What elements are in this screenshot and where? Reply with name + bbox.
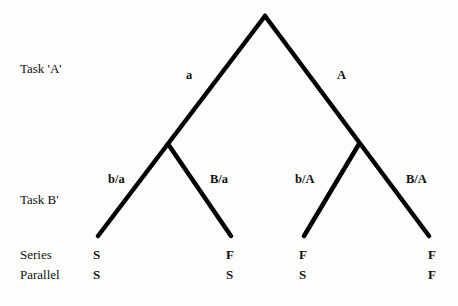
branch-B-given-a-line bbox=[168, 144, 231, 236]
branch-A-line bbox=[265, 16, 429, 236]
series-label: Series bbox=[20, 248, 52, 262]
parallel-outcome-4: F bbox=[428, 268, 436, 282]
branch-label-B-given-A: B/A bbox=[406, 172, 427, 186]
series-outcome-2: F bbox=[226, 248, 234, 262]
parallel-label: Parallel bbox=[20, 268, 60, 282]
series-outcome-3: F bbox=[299, 248, 307, 262]
series-outcome-1: S bbox=[93, 248, 100, 262]
branch-label-B-given-a: B/a bbox=[210, 172, 228, 186]
task-b-label: Task B' bbox=[20, 193, 59, 207]
task-a-label: Task 'A' bbox=[20, 62, 62, 76]
parallel-outcome-3: S bbox=[299, 268, 306, 282]
branch-label-A: A bbox=[337, 68, 346, 82]
parallel-outcome-1: S bbox=[93, 268, 100, 282]
parallel-outcome-2: S bbox=[226, 268, 233, 282]
branch-label-b-given-A: b/A bbox=[295, 172, 314, 186]
branch-b-given-A-line bbox=[304, 144, 359, 236]
branch-label-b-given-a: b/a bbox=[108, 172, 125, 186]
series-outcome-4: F bbox=[428, 248, 436, 262]
branch-a-line bbox=[98, 16, 265, 236]
branch-label-a: a bbox=[186, 68, 192, 82]
